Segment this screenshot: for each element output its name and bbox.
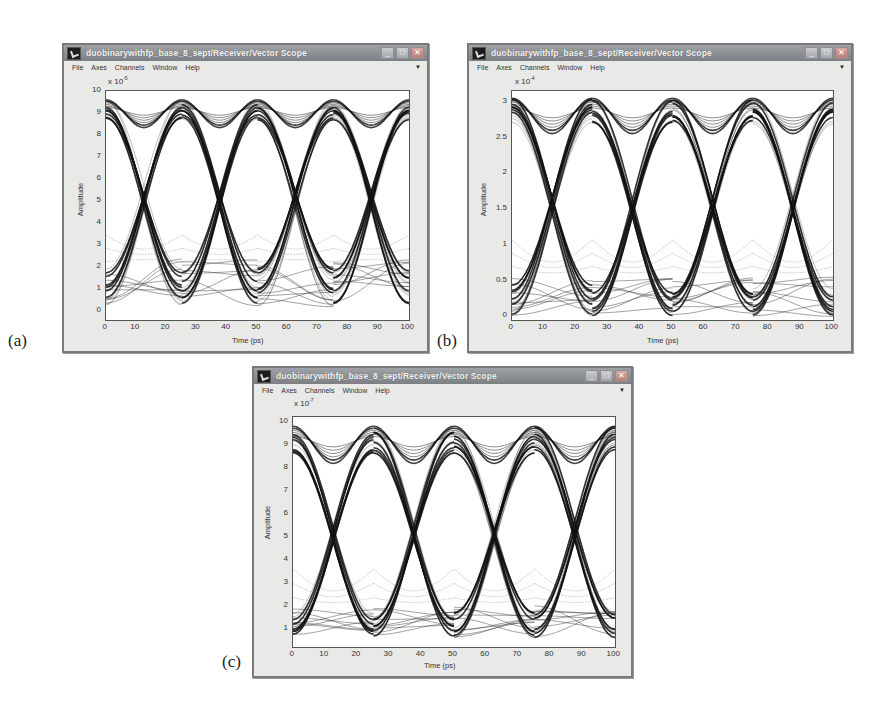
y-tick-label: 2 <box>97 261 101 270</box>
eye-diagram-plot <box>105 90 410 321</box>
x-axis-label: Time (ps) <box>424 661 455 670</box>
y-tick-label: 0 <box>503 310 507 319</box>
x-tick-label: 20 <box>161 322 170 331</box>
panel-label-c: (c) <box>222 652 241 672</box>
window-title: duobinarywithfp_base_8_sept/Receiver/Vec… <box>491 48 712 58</box>
eye-traces <box>512 91 833 320</box>
maximize-button[interactable]: □ <box>396 47 409 59</box>
y-exponent: x 10-7 <box>294 397 314 408</box>
eye-traces <box>293 417 615 647</box>
menu-overflow-icon[interactable]: ▼ <box>415 64 421 70</box>
y-exponent: x 10-5 <box>108 75 128 86</box>
x-tick-label: 70 <box>312 322 321 331</box>
x-tick-label: 0 <box>290 649 294 658</box>
x-tick-label: 50 <box>667 322 676 331</box>
y-tick-label: 4 <box>284 554 288 563</box>
eye-diagram-plot <box>292 416 616 648</box>
menu-help[interactable]: Help <box>590 64 604 71</box>
x-tick-label: 10 <box>538 322 547 331</box>
y-tick-label: 3 <box>503 96 507 105</box>
close-button[interactable]: ✕ <box>835 47 848 59</box>
y-tick-label: 6 <box>97 173 101 182</box>
y-tick-label: 2 <box>284 600 288 609</box>
menu-help[interactable]: Help <box>185 64 199 71</box>
y-tick-label: 0.5 <box>496 275 507 284</box>
x-tick-label: 100 <box>401 322 414 331</box>
matlab-icon <box>67 47 81 60</box>
x-tick-label: 90 <box>795 322 804 331</box>
menu-axes[interactable]: Axes <box>281 387 297 394</box>
window-title: duobinarywithfp_base_8_sept/Receiver/Vec… <box>86 48 307 58</box>
x-tick-label: 20 <box>570 322 579 331</box>
y-tick-label: 3 <box>97 239 101 248</box>
x-tick-label: 50 <box>448 649 457 658</box>
x-tick-label: 80 <box>545 649 554 658</box>
close-button[interactable]: ✕ <box>411 47 424 59</box>
x-tick-label: 30 <box>384 649 393 658</box>
menu-overflow-icon[interactable]: ▼ <box>619 387 625 393</box>
y-tick-label: 1 <box>97 283 101 292</box>
x-tick-label: 50 <box>252 322 261 331</box>
menu-bar: File Axes Channels Window Help ▼ <box>469 61 851 73</box>
panel-label-b: (b) <box>437 331 457 351</box>
y-axis-label: Amplitude <box>263 506 272 539</box>
x-tick-label: 40 <box>416 649 425 658</box>
x-tick-label: 0 <box>509 322 513 331</box>
x-tick-label: 80 <box>763 322 772 331</box>
x-tick-label: 30 <box>191 322 200 331</box>
menu-overflow-icon[interactable]: ▼ <box>839 64 845 70</box>
menu-channels[interactable]: Channels <box>520 64 550 71</box>
title-bar: duobinarywithfp_base_8_sept/Receiver/Vec… <box>469 45 851 61</box>
y-tick-label: 2 <box>503 167 507 176</box>
x-tick-label: 0 <box>103 322 107 331</box>
y-tick-label: 8 <box>97 129 101 138</box>
x-tick-label: 30 <box>602 322 611 331</box>
scope-window-b: duobinarywithfp_base_8_sept/Receiver/Vec… <box>467 43 853 353</box>
y-tick-label: 7 <box>97 151 101 160</box>
x-tick-label: 70 <box>512 649 521 658</box>
y-tick-label: 4 <box>97 217 101 226</box>
y-tick-label: 6 <box>284 508 288 517</box>
menu-channels[interactable]: Channels <box>115 64 145 71</box>
menu-help[interactable]: Help <box>375 387 389 394</box>
title-bar: duobinarywithfp_base_8_sept/Receiver/Vec… <box>254 368 631 384</box>
menu-bar: File Axes Channels Window Help ▼ <box>254 384 631 396</box>
y-tick-label: 9 <box>97 107 101 116</box>
x-axis-label: Time (ps) <box>647 336 678 345</box>
menu-window[interactable]: Window <box>152 64 177 71</box>
minimize-button[interactable]: _ <box>585 370 598 382</box>
matlab-icon <box>257 370 271 383</box>
y-exponent: x 10-4 <box>515 75 535 86</box>
x-tick-label: 80 <box>342 322 351 331</box>
y-tick-label: 5 <box>284 531 288 540</box>
menu-file[interactable]: File <box>262 387 273 394</box>
x-tick-label: 10 <box>130 322 139 331</box>
menu-file[interactable]: File <box>72 64 83 71</box>
y-tick-label: 2.5 <box>496 132 507 141</box>
menu-channels[interactable]: Channels <box>305 387 335 394</box>
menu-window[interactable]: Window <box>342 387 367 394</box>
x-tick-label: 60 <box>282 322 291 331</box>
menu-bar: File Axes Channels Window Help ▼ <box>64 61 427 73</box>
y-tick-label: 1 <box>284 623 288 632</box>
x-tick-label: 40 <box>634 322 643 331</box>
x-axis-label: Time (ps) <box>232 336 263 345</box>
maximize-button[interactable]: □ <box>820 47 833 59</box>
x-tick-label: 70 <box>731 322 740 331</box>
minimize-button[interactable]: _ <box>381 47 394 59</box>
scope-window-a: duobinarywithfp_base_8_sept/Receiver/Vec… <box>62 43 429 353</box>
x-tick-label: 90 <box>577 649 586 658</box>
window-title: duobinarywithfp_base_8_sept/Receiver/Vec… <box>276 371 497 381</box>
menu-axes[interactable]: Axes <box>496 64 512 71</box>
x-tick-label: 100 <box>825 322 838 331</box>
y-tick-label: 1.5 <box>496 203 507 212</box>
menu-file[interactable]: File <box>477 64 488 71</box>
menu-axes[interactable]: Axes <box>91 64 107 71</box>
y-tick-label: 3 <box>284 577 288 586</box>
minimize-button[interactable]: _ <box>805 47 818 59</box>
close-button[interactable]: ✕ <box>615 370 628 382</box>
y-tick-label: 0 <box>97 305 101 314</box>
x-tick-label: 100 <box>607 649 620 658</box>
menu-window[interactable]: Window <box>557 64 582 71</box>
maximize-button[interactable]: □ <box>600 370 613 382</box>
